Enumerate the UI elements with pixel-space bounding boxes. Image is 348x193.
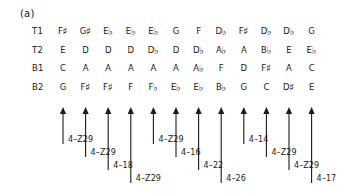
set-class-label: 4–26 (226, 174, 246, 184)
set-class-label: 4–Z29 (68, 135, 93, 145)
set-class-label: 4–Z29 (136, 174, 161, 184)
set-class-label: 4–Z29 (91, 148, 116, 158)
set-class-label: 4–Z29 (294, 161, 319, 171)
figure-panel-a: (a) T1F♯G♯E♭E♭E♭GFD♭F♯D♭D♭GT2EDDDD♭DD♭A♭… (0, 0, 348, 193)
set-class-label: 4–17 (317, 174, 337, 184)
set-class-label: 4–14 (249, 135, 269, 145)
set-class-label: 4–Z29 (158, 135, 183, 145)
arrow-head-icon (241, 107, 247, 114)
arrow-head-icon (196, 107, 202, 114)
arrow-head-icon (128, 107, 134, 114)
set-class-label: 4–16 (181, 148, 201, 158)
arrow-head-icon (309, 107, 315, 114)
arrow-head-icon (105, 107, 111, 114)
arrow-head-icon (150, 107, 156, 114)
arrow-head-icon (263, 107, 269, 114)
set-class-label: 4–Z29 (271, 148, 296, 158)
arrow-head-icon (218, 107, 224, 114)
arrow-head-icon (60, 107, 66, 114)
arrow-head-icon (286, 107, 292, 114)
arrow-head-icon (83, 107, 89, 114)
set-class-label: 4–18 (113, 161, 133, 171)
arrow-head-icon (173, 107, 179, 114)
set-class-label: 4–22 (204, 161, 224, 171)
